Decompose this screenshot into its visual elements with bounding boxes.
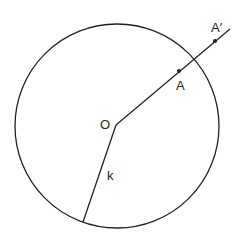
label-a: A	[176, 78, 185, 93]
label-o: O	[100, 117, 110, 132]
geometry-diagram: O A A′ k	[0, 0, 242, 241]
point-a	[177, 69, 181, 73]
label-a-prime: A′	[211, 20, 223, 35]
point-a-prime	[213, 39, 217, 43]
circle-k	[15, 24, 219, 228]
label-k: k	[107, 168, 114, 183]
ray-oa	[116, 29, 230, 125]
